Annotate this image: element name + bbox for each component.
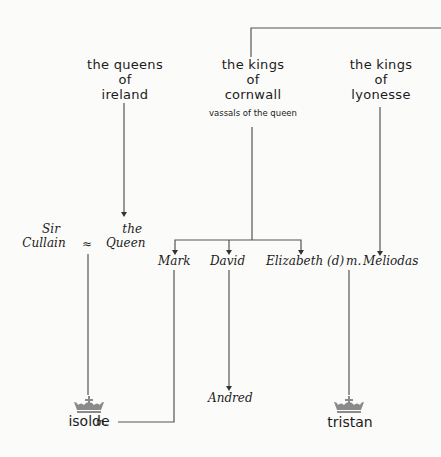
house-ireland-line-3: ireland [70,87,180,102]
person-tristan: tristan [310,414,390,430]
marriage-symbol: ≈ [82,237,92,251]
married-label-isolde: m. [96,417,107,427]
house-cornwall: the kings of cornwall [198,57,308,102]
crown-icon [332,396,366,414]
crown-icon [72,396,106,414]
house-cornwall-line-2: of [198,72,308,87]
married-label-elizabeth: m. [346,254,361,268]
person-the-queen: the Queen [106,222,142,250]
person-sir-cullain: Sir Cullain [36,222,66,250]
house-lyonesse-line-3: lyonesse [326,87,436,102]
person-meliodas: Meliodas [363,254,418,268]
sir-cullain-line-1: Sir [36,222,66,236]
person-david: David [210,254,245,268]
house-cornwall-line-3: cornwall [198,87,308,102]
house-ireland: the queens of ireland [70,57,180,102]
sir-cullain-line-2: Cullain [22,236,66,250]
house-ireland-line-1: the queens [70,57,180,72]
house-ireland-line-2: of [70,72,180,87]
person-elizabeth: Elizabeth (d) [266,254,344,268]
house-lyonesse-line-1: the kings [326,57,436,72]
house-lyonesse: the kings of lyonesse [326,57,436,102]
person-andred: Andred [208,391,253,405]
the-queen-line-1: the [106,222,142,236]
person-isolde: isolde [54,413,124,429]
the-queen-line-2: Queen [106,236,142,250]
person-mark: Mark [158,254,190,268]
house-lyonesse-line-2: of [326,72,436,87]
cornwall-note: vassals of the queen [188,108,318,118]
house-cornwall-line-1: the kings [198,57,308,72]
